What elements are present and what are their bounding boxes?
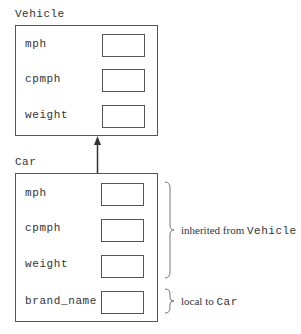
- annotation-inherited-ref: Vehicle: [247, 225, 297, 237]
- annotation-local-prefix: local to: [181, 295, 216, 307]
- brace-local: [165, 289, 174, 313]
- annotation-local-ref: Car: [216, 296, 237, 308]
- inheritance-arrow: [94, 136, 101, 173]
- brace-inherited: [165, 182, 174, 278]
- annotation-inherited-prefix: inherited from: [181, 224, 247, 236]
- connectors: [0, 0, 301, 334]
- annotation-local: local to Car: [181, 295, 238, 308]
- annotation-inherited: inherited from Vehicle: [181, 224, 297, 237]
